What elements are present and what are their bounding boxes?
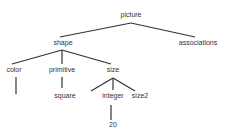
node-size: size	[107, 66, 119, 73]
node-integer: integer	[102, 92, 123, 99]
node-primitive: primitive	[49, 66, 75, 73]
edge-shape-color	[12, 50, 62, 64]
node-twenty: 20	[109, 121, 117, 128]
node-square: square	[54, 92, 75, 99]
node-associations: associations	[179, 39, 218, 46]
edge-picture-shape	[60, 23, 131, 37]
node-shape: shape	[53, 39, 72, 46]
node-size2: size2	[132, 92, 148, 99]
node-color: color	[6, 66, 21, 73]
edge-size-leaf	[91, 78, 113, 91]
edge-picture-associations	[131, 23, 195, 37]
edge-shape-size	[62, 50, 111, 64]
node-picture: picture	[120, 11, 141, 18]
edge-size-size2	[113, 78, 135, 91]
